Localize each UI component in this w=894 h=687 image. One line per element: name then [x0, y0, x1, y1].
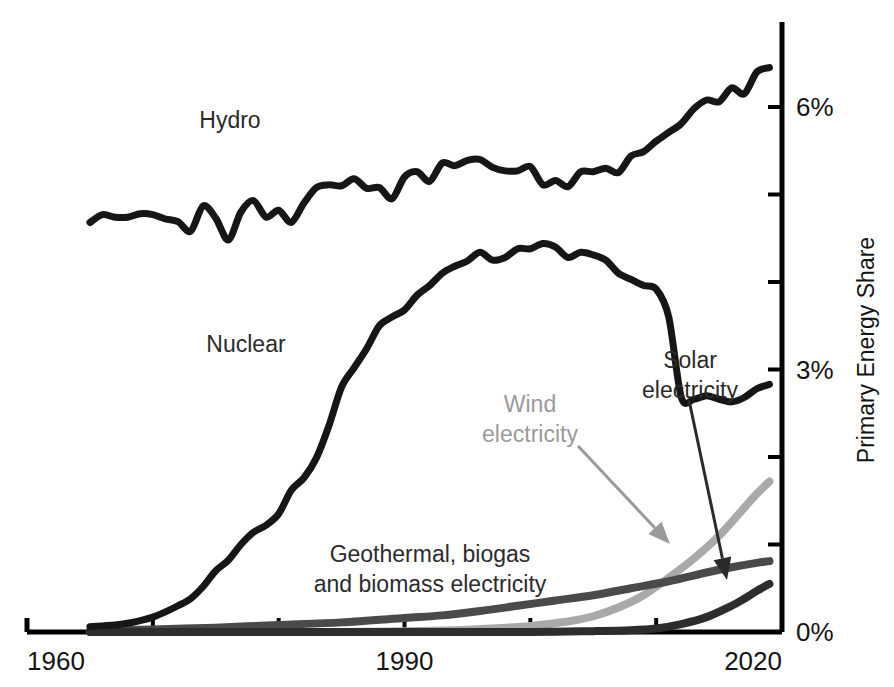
hydro-label-line-0: Hydro: [199, 107, 260, 133]
hydro-label: Hydro: [199, 107, 260, 133]
x-tick-label-1990: 1990: [376, 646, 434, 676]
y-axis-title-group: Primary Energy Share: [853, 237, 879, 463]
geothermal-label-line-1: and biomass electricity: [314, 571, 547, 597]
energy-share-chart: 1960199020200%3%6% HydroNuclearGeotherma…: [0, 0, 894, 687]
wind-label-line-1: electricity: [482, 421, 578, 447]
y-tick-label-6: 6%: [796, 92, 834, 122]
solar-label-line-0: Solar: [663, 347, 717, 373]
nuclear-label-line-0: Nuclear: [206, 331, 286, 357]
geothermal-label-line-0: Geothermal, biogas: [330, 541, 531, 567]
x-tick-label-1960: 1960: [27, 646, 85, 676]
y-axis-title: Primary Energy Share: [853, 237, 879, 463]
wind-label-line-0: Wind: [504, 391, 556, 417]
nuclear-label: Nuclear: [206, 331, 286, 357]
solar-label-line-1: electricity: [642, 377, 738, 403]
y-tick-label-3: 3%: [796, 355, 834, 385]
x-tick-label-2020: 2020: [724, 646, 782, 676]
y-tick-label-0: 0%: [796, 617, 834, 647]
chart-canvas: 1960199020200%3%6% HydroNuclearGeotherma…: [0, 0, 894, 687]
